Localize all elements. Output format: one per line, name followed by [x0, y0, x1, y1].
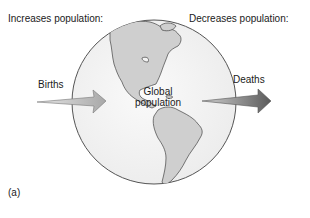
decreases-population-heading: Decreases population: [189, 13, 289, 25]
global-label-line2: population [128, 97, 188, 108]
increases-population-heading: Increases population: [8, 13, 103, 25]
births-arrow-icon [37, 90, 106, 113]
panel-label: (a) [8, 187, 20, 199]
deaths-label: Deaths [233, 74, 265, 86]
births-label: Births [38, 79, 64, 91]
diagram-canvas [0, 0, 310, 218]
global-population-label: Global population [128, 86, 188, 108]
global-label-line1: Global [128, 86, 188, 97]
